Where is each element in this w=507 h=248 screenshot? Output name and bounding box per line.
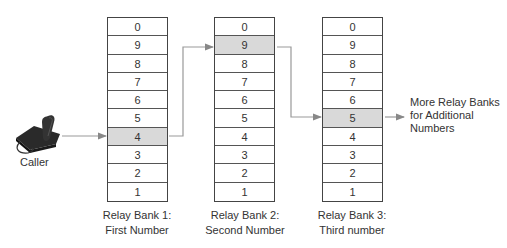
bank1-cell-8: 8 — [108, 55, 167, 73]
bank1-label-line1: Relay Bank 1: — [82, 208, 192, 223]
bank2-cell-5: 5 — [215, 109, 274, 127]
more-label-line1: More Relay Banks — [410, 96, 507, 109]
bank3-cell-2: 2 — [323, 164, 382, 182]
bank3-cell-8: 8 — [323, 55, 382, 73]
bank2-label: Relay Bank 2: Second Number — [190, 208, 300, 238]
bank3-cell-7: 7 — [323, 73, 382, 91]
caller-label: Caller — [20, 156, 49, 168]
bank3-cell-9: 9 — [323, 36, 382, 54]
relay-bank-3: 0 9 8 7 6 5 4 3 2 1 — [322, 17, 383, 202]
telephone-icon — [12, 112, 64, 154]
bank3-cell-5-selected: 5 — [323, 109, 382, 127]
bank3-label: Relay Bank 3: Third number — [297, 208, 407, 238]
bank1-cell-3: 3 — [108, 146, 167, 164]
bank2-label-line2: Second Number — [190, 223, 300, 238]
bank3-label-line2: Third number — [297, 223, 407, 238]
bank3-cell-3: 3 — [323, 146, 382, 164]
bank2-cell-6: 6 — [215, 91, 274, 109]
more-label-line2: for Additional — [410, 109, 507, 122]
bank3-cell-1: 1 — [323, 183, 382, 201]
bank3-cell-4: 4 — [323, 128, 382, 146]
bank1-cell-1: 1 — [108, 183, 167, 201]
bank1-label-line2: First Number — [82, 223, 192, 238]
bank2-cell-2: 2 — [215, 164, 274, 182]
bank1-cell-6: 6 — [108, 91, 167, 109]
bank1-cell-7: 7 — [108, 73, 167, 91]
bank2-cell-3: 3 — [215, 146, 274, 164]
bank2-cell-4: 4 — [215, 128, 274, 146]
more-relay-banks-label: More Relay Banks for Additional Numbers — [410, 96, 507, 135]
bank2-cell-1: 1 — [215, 183, 274, 201]
bank1-cell-4-selected: 4 — [108, 128, 167, 146]
relay-bank-2: 0 9 8 7 6 5 4 3 2 1 — [214, 17, 275, 202]
bank2-cell-9-selected: 9 — [215, 36, 274, 54]
bank2-cell-7: 7 — [215, 73, 274, 91]
bank3-cell-6: 6 — [323, 91, 382, 109]
bank1-cell-2: 2 — [108, 164, 167, 182]
bank1-label: Relay Bank 1: First Number — [82, 208, 192, 238]
bank2-label-line1: Relay Bank 2: — [190, 208, 300, 223]
bank1-cell-5: 5 — [108, 109, 167, 127]
bank2-cell-8: 8 — [215, 55, 274, 73]
more-label-line3: Numbers — [410, 122, 507, 135]
bank3-cell-0: 0 — [323, 18, 382, 36]
bank1-cell-9: 9 — [108, 36, 167, 54]
bank1-cell-0: 0 — [108, 18, 167, 36]
bank3-label-line1: Relay Bank 3: — [297, 208, 407, 223]
bank2-cell-0: 0 — [215, 18, 274, 36]
relay-bank-1: 0 9 8 7 6 5 4 3 2 1 — [107, 17, 168, 202]
